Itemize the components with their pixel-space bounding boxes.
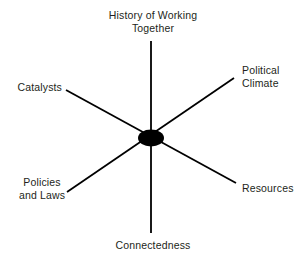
center-hub-ellipse: [138, 130, 164, 147]
label-connectedness: Connectedness: [0, 239, 306, 252]
label-policies-and-laws: Policies and Laws: [0, 176, 84, 202]
spoke-diagram: History of Working Together Political Cl…: [0, 0, 306, 267]
label-history-of-working-together: History of Working Together: [0, 9, 306, 35]
label-resources: Resources: [242, 182, 306, 195]
label-catalysts: Catalysts: [0, 81, 62, 94]
label-political-climate: Political Climate: [242, 64, 306, 90]
spoke-diagram-canvas: [0, 0, 306, 267]
